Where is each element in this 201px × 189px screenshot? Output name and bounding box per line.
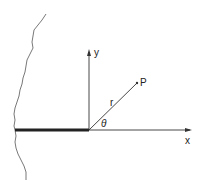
angle-label: θ [101,119,106,129]
point-label: P [140,78,147,88]
y-axis-arrow-icon [87,49,91,56]
jagged-boundary [14,14,46,180]
y-axis-label: y [94,48,99,58]
x-axis-label: x [185,136,190,146]
x-axis-arrow-icon [185,128,192,132]
radius-label: r [110,98,113,108]
point-p-dot [136,82,138,84]
crack-tip-diagram [0,0,201,189]
